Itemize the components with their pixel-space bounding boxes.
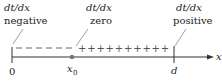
plus-sign: + — [161, 43, 169, 54]
label-mid-derivative: dt/dx — [86, 2, 112, 13]
plus-sign: + — [124, 43, 132, 54]
point-subscript: 0 — [73, 69, 77, 77]
origin-label: 0 — [9, 66, 15, 77]
label-left-derivative: dt/dx — [4, 2, 30, 13]
critical-point-marker — [70, 55, 74, 59]
label-right-derivative: dt/dx — [176, 2, 202, 13]
leader-line-positive — [175, 29, 186, 46]
plus-sign: + — [152, 43, 160, 54]
plus-sign: + — [96, 43, 104, 54]
sign-chart-diagram: dt/dx negative dt/dx zero dt/dx positive… — [0, 0, 222, 82]
label-zero: zero — [90, 15, 112, 26]
plus-sign: + — [142, 43, 150, 54]
leader-line-negative — [13, 29, 23, 44]
plus-sign: + — [133, 43, 141, 54]
axis-variable-label: x — [216, 51, 222, 62]
plus-sign: + — [106, 43, 114, 54]
label-positive: positive — [173, 15, 213, 26]
positive-plus-signs: ++++++++++ — [78, 43, 169, 54]
axis-arrow-icon — [207, 55, 214, 60]
plus-sign: + — [78, 43, 86, 54]
end-label: d — [171, 65, 177, 76]
plus-sign: + — [115, 43, 123, 54]
plus-sign: + — [87, 43, 95, 54]
diagram-canvas: dt/dx negative dt/dx zero dt/dx positive… — [0, 0, 222, 82]
label-negative: negative — [4, 15, 48, 26]
